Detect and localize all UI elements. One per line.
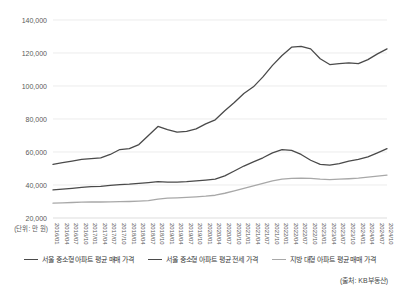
- x-axis-tick-label: 2020/04: [216, 223, 222, 245]
- x-axis-tick-label: 2020/10: [236, 223, 242, 245]
- x-axis-tick-label: 2019/01: [169, 223, 175, 245]
- x-axis-tick-label: 2017/01: [92, 223, 98, 245]
- x-axis-tick-label: 2016/04: [64, 223, 70, 245]
- x-axis-tick-label: 2017/04: [102, 223, 108, 245]
- x-axis-tick-label: 2019/10: [197, 223, 203, 245]
- chart-container: 20,00040,00060,00080,000100,000120,00014…: [0, 0, 400, 297]
- x-axis-tick-label: 2021/10: [274, 223, 280, 245]
- x-axis-tick-label: 2022/01: [283, 223, 289, 245]
- x-axis-tick-label: 2018/07: [150, 223, 156, 245]
- unit-label: (단위: 만 원): [14, 224, 48, 233]
- y-axis-tick-label: 100,000: [22, 83, 47, 90]
- y-axis-tick-labels: 20,00040,00060,00080,000100,000120,00014…: [22, 17, 47, 222]
- y-axis-tick-label: 60,000: [26, 149, 48, 156]
- x-axis-tick-label: 2022/07: [302, 223, 308, 245]
- y-axis-tick-label: 140,000: [22, 17, 47, 24]
- legend-label: 서울 중소형 아파트 평균 매매 가격: [42, 254, 134, 264]
- x-axis-tick-label: 2019/07: [188, 223, 194, 245]
- x-axis-tick-label: 2016/01: [54, 223, 60, 245]
- x-axis-tick-label: 2024/04: [369, 223, 375, 245]
- x-axis-tick-label: 2022/10: [312, 223, 318, 245]
- series-line: [53, 149, 387, 190]
- legend-line-icon: [148, 259, 162, 260]
- x-axis-tick-label: 2018/04: [140, 223, 146, 245]
- legend-item[interactable]: 지방 대형 아파트 평균 매매 가격: [272, 254, 376, 264]
- series-line: [53, 46, 387, 164]
- x-axis-tick-label: 2023/01: [321, 223, 327, 245]
- x-axis-tick-label: 2016/10: [83, 223, 89, 245]
- legend-line-icon: [272, 259, 286, 260]
- x-axis-tick-label: 2023/04: [331, 223, 337, 245]
- x-axis-tick-label: 2020/01: [207, 223, 213, 245]
- x-axis-tick-label: 2023/10: [350, 223, 356, 245]
- line-chart-plot: 20,00040,00060,00080,000100,000120,00014…: [0, 0, 400, 254]
- x-axis-tick-label: 2021/01: [245, 223, 251, 245]
- x-axis-tick-label: 2023/07: [340, 223, 346, 245]
- x-axis-tick-label: 2018/10: [159, 223, 165, 245]
- series-line: [53, 175, 387, 203]
- y-axis-tick-label: 120,000: [22, 50, 47, 57]
- x-axis-tick-label: 2024/07: [379, 223, 385, 245]
- legend-line-icon: [24, 259, 38, 260]
- x-axis-tick-label: 2022/04: [293, 223, 299, 245]
- x-axis-tick-labels: 2016/012016/042016/072016/102017/012017/…: [54, 223, 394, 245]
- legend-item[interactable]: 서울 중소형 아파트 평균 전세 가격: [148, 254, 258, 264]
- x-axis-tick-label: 2016/07: [73, 223, 79, 245]
- x-axis-tick-label: 2024/10: [388, 223, 394, 245]
- y-axis-tick-label: 80,000: [26, 116, 48, 123]
- x-axis-tick-label: 2017/10: [121, 223, 127, 245]
- x-axis-tick-label: 2021/07: [264, 223, 270, 245]
- x-axis-tick-label: 2021/04: [255, 223, 261, 245]
- legend-label: 지방 대형 아파트 평균 매매 가격: [290, 254, 376, 264]
- x-axis-tick-label: 2020/07: [226, 223, 232, 245]
- legend-label: 서울 중소형 아파트 평균 전세 가격: [166, 254, 258, 264]
- x-axis-tick-label: 2024/01: [360, 223, 366, 245]
- y-axis-tick-label: 40,000: [26, 182, 48, 189]
- x-axis-tick-label: 2017/07: [111, 223, 117, 245]
- y-axis-tick-label: 20,000: [26, 215, 48, 222]
- series-lines: [53, 46, 387, 203]
- chart-legend: 서울 중소형 아파트 평균 매매 가격서울 중소형 아파트 평균 전세 가격지방…: [0, 254, 400, 264]
- x-axis-tick-label: 2018/01: [131, 223, 137, 245]
- legend-item[interactable]: 서울 중소형 아파트 평균 매매 가격: [24, 254, 134, 264]
- source-note: (출처: KB부동산): [340, 275, 388, 285]
- gridlines: [53, 20, 387, 218]
- x-axis-tick-label: 2019/04: [178, 223, 184, 245]
